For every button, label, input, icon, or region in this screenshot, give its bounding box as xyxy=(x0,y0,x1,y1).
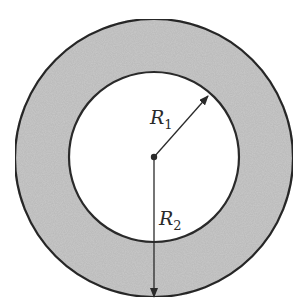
annulus-diagram: R1 R2 xyxy=(0,0,303,306)
center-point xyxy=(151,154,157,160)
